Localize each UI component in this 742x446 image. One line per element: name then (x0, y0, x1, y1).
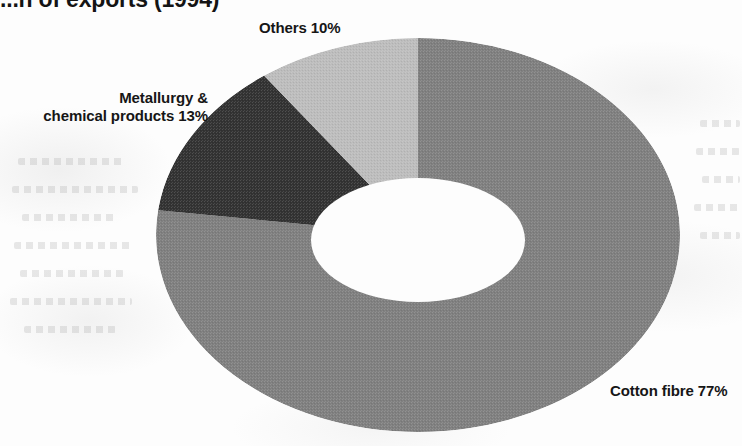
donut-chart-svg (0, 0, 742, 446)
chart-page: ...n of exports (1994) (0, 0, 742, 446)
slice-label-metallurgy: Metallurgy & chemical products 13% (23, 89, 208, 125)
donut-chart (0, 0, 742, 446)
slice-label-metallurgy-line2: chemical products 13% (23, 107, 208, 125)
slice-label-others: Others 10% (259, 19, 341, 37)
slice-label-metallurgy-line1: Metallurgy & (23, 89, 208, 107)
donut-hole (311, 178, 525, 302)
slice-label-cotton-fibre: Cotton fibre 77% (610, 382, 728, 400)
